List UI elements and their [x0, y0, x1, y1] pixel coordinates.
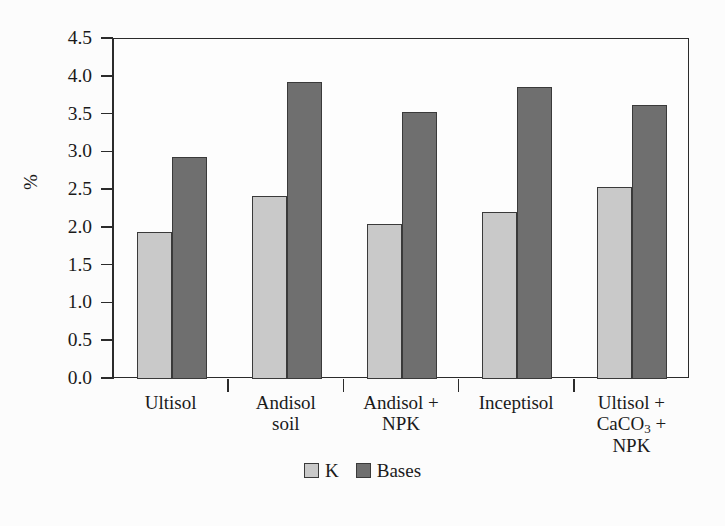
y-axis-tick — [101, 151, 113, 153]
y-axis-tick-label: 4.0 — [68, 66, 92, 86]
light-gray-swatch — [304, 463, 319, 478]
bar-k-1 — [252, 196, 287, 379]
y-axis-tick-label: 3.5 — [68, 104, 92, 124]
bar-bases-2 — [402, 112, 437, 379]
y-axis-title: % — [20, 174, 42, 190]
bar-bases-1 — [287, 82, 322, 379]
y-axis-tick-label: 0.5 — [68, 330, 92, 350]
legend-item-k[interactable]: K — [304, 461, 339, 480]
x-axis-category-label: Ultisol +CaCO3 +NPK — [574, 392, 689, 456]
bar-k-0 — [137, 232, 172, 379]
x-axis-tick — [573, 379, 575, 392]
y-axis-tick — [101, 113, 113, 115]
x-axis-category-label: Inceptisol — [459, 392, 574, 413]
y-axis-tick — [101, 302, 113, 304]
legend-item-bases[interactable]: Bases — [356, 461, 421, 480]
x-axis-tick — [343, 379, 345, 392]
plot-area — [113, 38, 689, 378]
bar-k-2 — [367, 224, 402, 379]
y-axis-tick-label: 0.0 — [68, 368, 92, 388]
x-axis-category-label: Andisol +NPK — [343, 392, 458, 435]
legend-item-label: Bases — [377, 461, 421, 480]
y-axis-tick — [101, 339, 113, 341]
legend-item-label: K — [325, 461, 339, 480]
bar-chart-figure: % 0.00.51.01.52.02.53.03.54.04.5 Ultisol… — [0, 0, 725, 526]
y-axis-tick — [101, 377, 113, 379]
bar-bases-4 — [632, 105, 667, 379]
bar-bases-0 — [172, 157, 207, 379]
bar-k-3 — [482, 212, 517, 379]
x-axis-category-label: Andisolsoil — [228, 392, 343, 435]
y-axis-tick — [101, 75, 113, 77]
y-axis-tick-label: 1.0 — [68, 292, 92, 312]
legend: KBases — [0, 461, 725, 480]
y-axis-tick-label: 3.0 — [68, 141, 92, 161]
y-axis-tick — [101, 37, 113, 39]
y-axis-tick-label: 4.5 — [68, 28, 92, 48]
dark-gray-swatch — [356, 463, 371, 478]
y-axis-tick-label: 2.0 — [68, 217, 92, 237]
y-axis-tick-label: 1.5 — [68, 255, 92, 275]
bar-k-4 — [597, 187, 632, 379]
y-axis-tick-label: 2.5 — [68, 179, 92, 199]
y-axis-tick — [101, 226, 113, 228]
x-axis-category-label: Ultisol — [113, 392, 228, 413]
y-axis-tick — [101, 188, 113, 190]
x-axis-tick — [458, 379, 460, 392]
bar-bases-3 — [517, 87, 552, 379]
x-axis-tick — [227, 379, 229, 392]
y-axis-tick — [101, 264, 113, 266]
